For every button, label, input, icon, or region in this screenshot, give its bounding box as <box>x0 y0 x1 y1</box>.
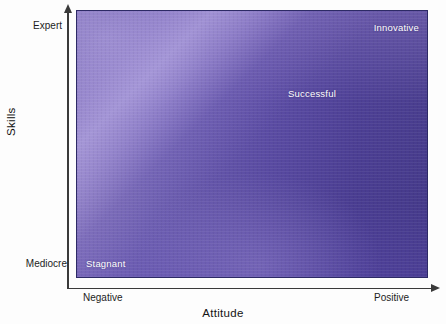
x-axis-tick-negative: Negative <box>83 292 122 303</box>
x-axis-line <box>67 288 433 290</box>
y-axis-title: Skills <box>5 116 17 136</box>
y-axis-tick-mediocre: Mediocre <box>26 258 67 269</box>
quadrant-label-stagnant: Stagnant <box>86 258 126 269</box>
y-axis-line <box>67 12 69 289</box>
x-axis-tick-positive: Positive <box>374 292 409 303</box>
skills-attitude-matrix-chart: Innovative Successful Stagnant Expert Me… <box>0 0 446 324</box>
y-axis-tick-expert: Expert <box>33 20 62 31</box>
plot-area: Innovative Successful Stagnant <box>76 10 428 278</box>
scan-noise-overlay <box>77 11 427 277</box>
quadrant-label-innovative: Innovative <box>374 22 419 33</box>
x-axis-title: Attitude <box>0 307 446 319</box>
quadrant-label-successful: Successful <box>288 88 336 99</box>
y-axis-arrow-icon <box>64 4 72 13</box>
x-axis-arrow-icon <box>431 284 440 292</box>
